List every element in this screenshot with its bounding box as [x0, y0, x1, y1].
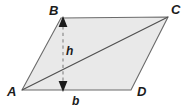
- parallelogram-diagram-svg: [0, 0, 188, 111]
- base-label: b: [72, 95, 79, 107]
- parallelogram-figure: A B C D h b: [0, 0, 188, 111]
- vertex-label-c: C: [171, 3, 180, 16]
- vertex-label-b: B: [49, 4, 58, 17]
- vertex-label-a: A: [7, 85, 16, 98]
- vertex-label-d: D: [137, 85, 146, 98]
- height-label: h: [66, 45, 73, 57]
